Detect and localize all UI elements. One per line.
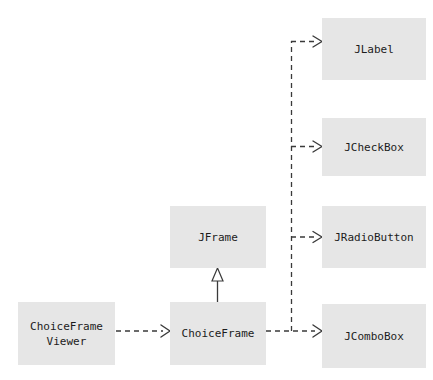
dependency-viewer-to-choiceframe bbox=[116, 325, 170, 337]
class-box-choiceframeviewer[interactable]: ChoiceFrame Viewer bbox=[18, 302, 115, 365]
uml-class-diagram: JLabel JCheckBox JRadioButton JComboBox … bbox=[0, 0, 433, 380]
class-box-label: JFrame bbox=[198, 230, 238, 245]
dependency-choiceframe-to-jcheckbox bbox=[291, 141, 322, 152]
class-box-label: JComboBox bbox=[344, 329, 404, 344]
dependency-choiceframe-to-jlabel bbox=[291, 36, 322, 47]
class-box-label: JLabel bbox=[354, 42, 394, 57]
dependency-choiceframe-to-jradiobutton bbox=[291, 232, 322, 243]
class-box-choiceframe[interactable]: ChoiceFrame bbox=[170, 302, 266, 365]
class-box-jlabel[interactable]: JLabel bbox=[322, 18, 426, 80]
class-box-label: ChoiceFrame Viewer bbox=[30, 319, 103, 349]
inheritance-choiceframe-to-jframe bbox=[212, 268, 223, 302]
dependency-choiceframe-to-jcombobox bbox=[266, 325, 322, 337]
class-box-label: JCheckBox bbox=[344, 140, 404, 155]
class-box-jcheckbox[interactable]: JCheckBox bbox=[322, 118, 426, 176]
class-box-jradiobutton[interactable]: JRadioButton bbox=[322, 206, 426, 268]
class-box-label: ChoiceFrame bbox=[182, 326, 255, 341]
class-box-jcombobox[interactable]: JComboBox bbox=[322, 304, 426, 368]
class-box-jframe[interactable]: JFrame bbox=[170, 206, 266, 268]
class-box-label: JRadioButton bbox=[334, 230, 413, 245]
